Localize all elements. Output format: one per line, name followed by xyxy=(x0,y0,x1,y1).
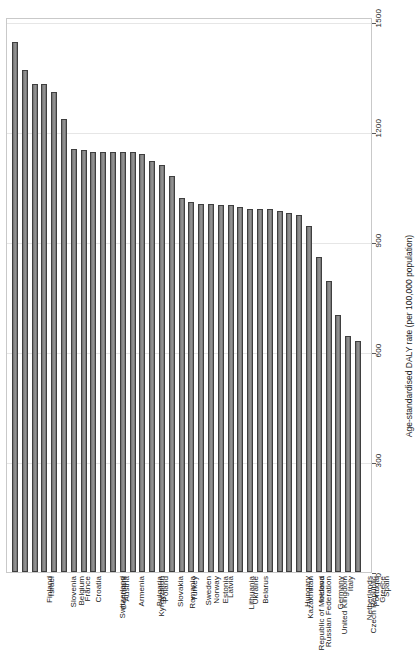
bar xyxy=(71,149,77,573)
x-tick-label: France xyxy=(83,576,91,602)
bar xyxy=(326,281,332,573)
bar xyxy=(149,161,155,572)
x-tick-label: Austria xyxy=(123,576,131,602)
x-tick-label: Israel xyxy=(48,576,56,596)
bar xyxy=(100,152,106,572)
y-tick-label: 300 xyxy=(374,454,383,468)
bar xyxy=(345,336,351,573)
bar xyxy=(355,341,361,572)
bar xyxy=(286,213,292,572)
bar xyxy=(267,209,273,572)
bar xyxy=(159,165,165,572)
bar xyxy=(296,215,302,573)
bar xyxy=(120,152,126,572)
x-tick-label: Slovakia xyxy=(177,576,185,607)
bar xyxy=(81,150,87,572)
bar xyxy=(41,84,47,572)
y-axis-title-label: Age-standardised DALY rate (per 100,000 … xyxy=(404,234,414,436)
x-tick-label: Spain xyxy=(382,576,390,597)
bar xyxy=(306,226,312,573)
bar xyxy=(208,204,214,573)
bar xyxy=(51,92,57,572)
bar xyxy=(335,315,341,572)
plot-panel xyxy=(6,18,372,573)
bar xyxy=(110,152,116,572)
y-axis-title: Age-standardised DALY rate (per 100,000 … xyxy=(400,0,418,671)
x-tick-label: Poland xyxy=(162,576,170,602)
y-tick-label: 900 xyxy=(374,234,383,248)
bar xyxy=(130,152,136,572)
x-axis-labels: FinlandIsraelSloveniaBelgiumFranceCroati… xyxy=(6,576,372,671)
y-tick-label: 600 xyxy=(374,344,383,358)
bar xyxy=(12,42,18,572)
bar xyxy=(257,209,263,572)
bar xyxy=(179,198,185,572)
x-tick-label: Croatia xyxy=(94,576,102,603)
bar xyxy=(188,202,194,572)
x-tick-label: Ukraine xyxy=(253,576,261,604)
x-tick-label: Ireland xyxy=(318,576,326,601)
bar xyxy=(228,205,234,572)
x-tick-label: Hungary xyxy=(304,576,312,607)
bar xyxy=(237,207,243,572)
y-tick-label: 1200 xyxy=(374,119,383,138)
bar xyxy=(218,205,224,572)
x-tick-label: Latvia xyxy=(227,576,235,598)
bar-series xyxy=(7,19,371,572)
y-tick-label: 1500 xyxy=(374,9,383,28)
bar xyxy=(316,257,322,572)
bar xyxy=(277,211,283,572)
bar-chart-figure: 030060090012001500 Age-standardised DALY… xyxy=(0,0,418,671)
bar xyxy=(22,70,28,572)
x-tick-label: Turkey xyxy=(190,576,198,601)
x-tick-label: Germany xyxy=(336,576,344,610)
x-tick-label: Armenia xyxy=(137,576,145,607)
bar xyxy=(169,176,175,572)
bar xyxy=(61,119,67,572)
x-tick-label: Norway xyxy=(213,576,221,604)
bar xyxy=(90,152,96,572)
bar xyxy=(139,154,145,572)
bar xyxy=(198,204,204,573)
bar xyxy=(32,84,38,572)
bar xyxy=(247,209,253,572)
x-tick-label: Italy xyxy=(347,576,355,591)
x-tick-label: Belarus xyxy=(262,576,270,604)
